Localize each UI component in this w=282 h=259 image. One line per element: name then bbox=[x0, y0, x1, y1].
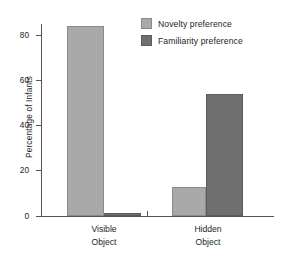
legend-label-novelty-preference: Novelty preference bbox=[158, 19, 232, 29]
bar-visible-novelty bbox=[67, 26, 104, 216]
legend-item-familiarity-preference: Familiarity preference bbox=[141, 33, 243, 48]
bar-chart: Percentage of Infants 0 20 40 60 80 Visi… bbox=[0, 0, 282, 259]
y-tick-label-40: 40 bbox=[5, 121, 29, 129]
legend-swatch-familiarity-icon bbox=[141, 35, 152, 46]
y-tick-60 bbox=[36, 80, 42, 81]
y-tick-20 bbox=[36, 170, 42, 171]
bar-hidden-novelty bbox=[172, 187, 206, 216]
y-tick-label-0: 0 bbox=[5, 212, 29, 220]
bar-visible-familiarity bbox=[104, 213, 141, 216]
legend-label-familiarity-preference: Familiarity preference bbox=[158, 36, 243, 46]
y-axis-line bbox=[41, 24, 42, 217]
x-axis-group-label-visible-line1: Visible bbox=[64, 223, 144, 236]
x-axis-group-separator-tick bbox=[147, 211, 148, 217]
legend-item-novelty-preference: Novelty preference bbox=[141, 16, 243, 31]
x-axis-group-label-visible-line2: Object bbox=[64, 236, 144, 249]
y-tick-0 bbox=[36, 216, 42, 217]
x-axis-group-label-hidden-line2: Object bbox=[168, 236, 248, 249]
y-tick-80 bbox=[36, 35, 42, 36]
legend: Novelty preference Familiarity preferenc… bbox=[141, 16, 243, 50]
y-tick-40 bbox=[36, 125, 42, 126]
x-axis-group-label-visible-object: Visible Object bbox=[64, 223, 144, 248]
y-tick-label-80: 80 bbox=[5, 31, 29, 39]
y-tick-label-60: 60 bbox=[5, 76, 29, 84]
legend-swatch-novelty-icon bbox=[141, 18, 152, 29]
bar-hidden-familiarity bbox=[206, 94, 243, 216]
x-axis-group-label-hidden-line1: Hidden bbox=[168, 223, 248, 236]
y-tick-label-20: 20 bbox=[5, 166, 29, 174]
x-axis-group-label-hidden-object: Hidden Object bbox=[168, 223, 248, 248]
x-axis-line bbox=[41, 216, 274, 217]
